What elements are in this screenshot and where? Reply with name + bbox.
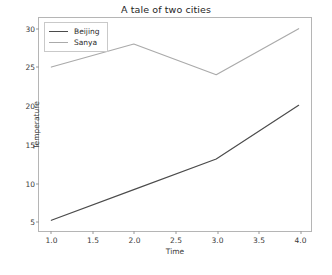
x-tick-mark	[217, 231, 218, 234]
x-tick-label: 4.0	[295, 236, 307, 245]
x-tick-mark	[134, 231, 135, 234]
plot-axes: 51015202530 1.01.52.02.53.03.54.0 Temper…	[38, 17, 312, 232]
x-tick-label: 3.0	[212, 236, 224, 245]
x-tick-mark	[176, 231, 177, 234]
x-tick-mark	[92, 231, 93, 234]
y-tick-mark	[36, 222, 39, 223]
y-tick-mark	[36, 28, 39, 29]
legend-swatch-sanya	[49, 42, 68, 43]
y-tick-mark	[36, 67, 39, 68]
legend-label-beijing: Beijing	[74, 27, 100, 36]
x-tick-mark	[300, 231, 301, 234]
x-tick-mark	[51, 231, 52, 234]
y-axis-label: Temperature	[32, 101, 41, 149]
y-tick-mark	[36, 183, 39, 184]
x-tick-mark	[259, 231, 260, 234]
legend-item-beijing: Beijing	[49, 26, 100, 37]
x-tick-label: 2.5	[170, 236, 182, 245]
figure-canvas: A tale of two cities 51015202530 1.01.52…	[0, 0, 332, 275]
line-series-beijing	[51, 105, 298, 220]
legend-item-sanya: Sanya	[49, 37, 100, 48]
x-tick-label: 3.5	[253, 236, 265, 245]
y-tick-label: 5	[30, 218, 35, 227]
x-tick-label: 1.0	[45, 236, 57, 245]
legend-label-sanya: Sanya	[74, 38, 97, 47]
legend-swatch-beijing	[49, 31, 68, 32]
y-tick-label: 10	[25, 179, 35, 188]
x-axis-label: Time	[39, 247, 311, 256]
y-tick-label: 30	[25, 24, 35, 33]
chart-title: A tale of two cities	[0, 4, 332, 15]
chart-legend: Beijing Sanya	[44, 22, 108, 52]
y-tick-label: 25	[25, 63, 35, 72]
x-tick-label: 1.5	[87, 236, 99, 245]
x-tick-label: 2.0	[129, 236, 141, 245]
